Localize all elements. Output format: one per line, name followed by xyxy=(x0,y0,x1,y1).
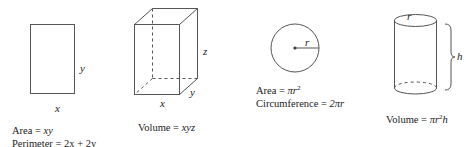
cylinder-shape xyxy=(395,15,437,95)
circle-area-formula: Area = πr2 xyxy=(256,84,344,97)
rectangle-width-label: x xyxy=(55,102,60,114)
cylinder-volume-formula: Volume = πr2h xyxy=(386,113,448,126)
rectangle-perimeter-formula: Perimeter = 2x + 2y xyxy=(12,137,96,147)
cylinder-radius-label: r xyxy=(407,10,411,22)
box-volume-formula: Volume = xyz xyxy=(138,121,195,134)
circle-radius-label: r xyxy=(305,36,309,48)
box-depth-label: y xyxy=(190,86,195,98)
circle-circumference-formula: Circumference = 2πr xyxy=(256,97,344,110)
box-shape xyxy=(135,9,198,95)
height-brace xyxy=(445,24,455,90)
cylinder-height-label: h xyxy=(457,50,463,62)
box-height-label: z xyxy=(203,45,207,57)
rectangle-height-label: y xyxy=(80,62,85,74)
rectangle-area-formula: Area = xy xyxy=(12,124,96,137)
circle-formulas: Area = πr2 Circumference = 2πr xyxy=(256,84,344,110)
rectangle-shape xyxy=(31,25,75,94)
rectangle-formulas: Area = xy Perimeter = 2x + 2y xyxy=(12,124,96,147)
box-width-label: x xyxy=(160,97,165,109)
circle-shape xyxy=(271,24,319,72)
